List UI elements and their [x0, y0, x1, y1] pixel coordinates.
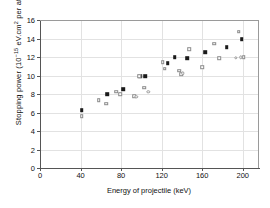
x-tick-label: 0 — [25, 171, 55, 180]
data-point-filled-squares — [173, 56, 177, 60]
data-point-open-squares — [118, 93, 122, 97]
data-point-open-squares — [200, 65, 204, 69]
data-point-open-squares — [242, 56, 246, 60]
gridline-vertical — [243, 20, 244, 168]
gridline-vertical — [202, 20, 203, 168]
data-point-open-circles — [181, 71, 184, 74]
data-point-open-squares — [237, 30, 241, 34]
data-point-filled-squares — [166, 61, 170, 65]
data-point-open-squares — [114, 90, 118, 94]
plot-border-top — [40, 20, 258, 21]
y-tick-label: 16 — [13, 16, 35, 25]
gridline-horizontal — [40, 113, 258, 114]
x-axis-label: Energy of projectile (keV) — [40, 186, 258, 195]
plot-border-right — [258, 20, 259, 168]
y-axis-spine — [40, 20, 41, 168]
y-tick-label: 12 — [13, 53, 35, 62]
data-point-filled-squares — [240, 38, 244, 42]
data-point-open-squares — [143, 86, 147, 90]
gridline-vertical — [81, 20, 82, 168]
data-point-open-circles — [135, 95, 138, 98]
gridline-horizontal — [40, 39, 258, 40]
y-tick-label: 10 — [13, 71, 35, 80]
data-point-open-circles — [147, 90, 150, 93]
data-point-filled-squares — [185, 56, 189, 60]
gridline-horizontal — [40, 94, 258, 95]
data-point-filled-squares — [225, 45, 229, 49]
x-tick-label: 40 — [66, 171, 96, 180]
data-point-open-squares — [163, 67, 167, 71]
gridline-horizontal — [40, 57, 258, 58]
data-point-open-squares — [213, 42, 217, 46]
data-point-open-squares — [218, 56, 222, 60]
x-tick-label: 120 — [147, 171, 177, 180]
data-point-open-squares — [104, 102, 108, 106]
x-tick-label: 160 — [187, 171, 217, 180]
x-tick-label: 200 — [228, 171, 258, 180]
data-point-open-squares — [187, 47, 191, 51]
y-tick-label: 4 — [13, 127, 35, 136]
data-point-filled-squares — [144, 74, 148, 78]
gridline-horizontal — [40, 131, 258, 132]
data-point-open-squares — [80, 114, 84, 118]
y-tick-label: 2 — [13, 145, 35, 154]
data-point-open-squares — [161, 60, 165, 64]
gridline-horizontal — [40, 150, 258, 151]
data-point-filled-squares — [203, 50, 207, 54]
data-point-open-squares — [97, 98, 101, 102]
gridline-horizontal — [40, 76, 258, 77]
data-point-filled-squares — [80, 108, 84, 112]
x-tick-label: 80 — [106, 171, 136, 180]
data-point-open-squares — [138, 74, 142, 78]
data-point-filled-squares — [105, 93, 109, 97]
x-axis-spine — [40, 168, 260, 169]
gridline-vertical — [162, 20, 163, 168]
y-tick-label: 6 — [13, 108, 35, 117]
stopping-power-scatter-chart: Stopping power (10−15 eV.cm2 per atom) E… — [0, 0, 270, 208]
y-tick-label: 8 — [13, 90, 35, 99]
y-tick-label: 14 — [13, 34, 35, 43]
data-point-open-circles — [234, 56, 237, 59]
data-point-filled-squares — [121, 87, 125, 91]
